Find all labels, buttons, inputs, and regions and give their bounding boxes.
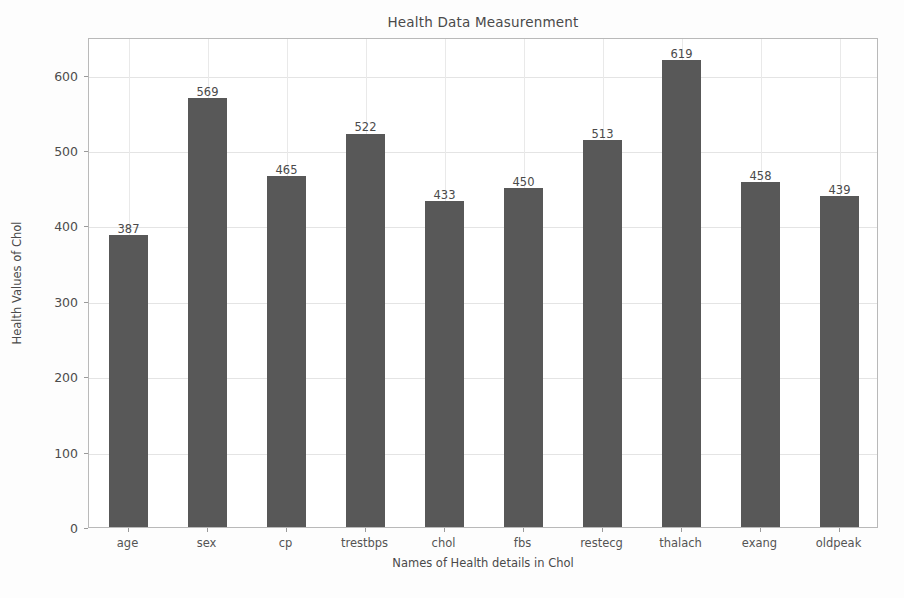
- bar-value-label: 433: [415, 188, 475, 202]
- x-tick-label: cp: [241, 536, 331, 550]
- x-tick-mark: [128, 528, 129, 532]
- x-tick-mark: [839, 528, 840, 532]
- bar[interactable]: [662, 60, 701, 527]
- x-tick-label: fbs: [478, 536, 568, 550]
- bar-value-label: 458: [731, 169, 791, 183]
- chart-title: Health Data Measurenment: [88, 14, 878, 30]
- y-tick-label: 300: [32, 294, 78, 309]
- bar-value-label: 513: [573, 127, 633, 141]
- x-tick-mark: [365, 528, 366, 532]
- x-tick-label: exang: [715, 536, 805, 550]
- y-tick-mark: [84, 226, 88, 227]
- x-tick-mark: [681, 528, 682, 532]
- bar[interactable]: [425, 201, 464, 527]
- bar-value-label: 439: [810, 183, 870, 197]
- y-tick-label: 0: [32, 521, 78, 536]
- x-tick-mark: [444, 528, 445, 532]
- bar[interactable]: [188, 98, 227, 527]
- x-tick-mark: [760, 528, 761, 532]
- y-axis-title: Health Values of Chol: [10, 222, 24, 345]
- bar[interactable]: [267, 176, 306, 527]
- y-tick-mark: [84, 377, 88, 378]
- x-tick-label: thalach: [636, 536, 726, 550]
- bar[interactable]: [504, 188, 543, 527]
- x-tick-mark: [286, 528, 287, 532]
- y-tick-mark: [84, 302, 88, 303]
- x-tick-label: chol: [399, 536, 489, 550]
- y-tick-mark: [84, 76, 88, 77]
- x-axis-title: Names of Health details in Chol: [88, 556, 878, 570]
- x-tick-label: oldpeak: [794, 536, 884, 550]
- bar-value-label: 387: [99, 222, 159, 236]
- x-tick-mark: [602, 528, 603, 532]
- bar-value-label: 569: [178, 85, 238, 99]
- bar[interactable]: [820, 196, 859, 527]
- y-tick-mark: [84, 528, 88, 529]
- x-tick-mark: [523, 528, 524, 532]
- y-tick-label: 400: [32, 219, 78, 234]
- bar-chart-figure: Health Data Measurenment Health Values o…: [0, 0, 904, 598]
- y-tick-label: 600: [32, 68, 78, 83]
- x-tick-label: trestbps: [320, 536, 410, 550]
- bar-value-label: 522: [336, 120, 396, 134]
- plot-area: 387569465522433450513619458439: [88, 38, 878, 528]
- bar[interactable]: [109, 235, 148, 527]
- bar[interactable]: [741, 182, 780, 527]
- x-tick-label: sex: [162, 536, 252, 550]
- y-tick-mark: [84, 151, 88, 152]
- x-tick-label: restecg: [557, 536, 647, 550]
- bar-value-label: 619: [652, 47, 712, 61]
- y-tick-label: 500: [32, 144, 78, 159]
- bar[interactable]: [346, 134, 385, 528]
- y-tick-mark: [84, 453, 88, 454]
- y-tick-label: 100: [32, 445, 78, 460]
- bar-value-label: 450: [494, 175, 554, 189]
- bar-value-label: 465: [257, 163, 317, 177]
- bar[interactable]: [583, 140, 622, 527]
- x-tick-label: age: [83, 536, 173, 550]
- x-tick-mark: [207, 528, 208, 532]
- y-tick-label: 200: [32, 370, 78, 385]
